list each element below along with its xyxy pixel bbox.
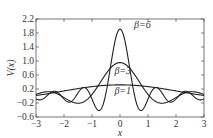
y-tick-label: −0.2 <box>17 98 34 108</box>
x-axis-label: x <box>117 127 123 138</box>
annotation-beta-3: β=3 <box>113 65 131 76</box>
annotation-beta-1: β=1 <box>113 85 131 96</box>
x-tick-label: −2 <box>59 119 69 129</box>
x-tick-label: 2 <box>174 119 179 129</box>
y-tick-label: 1.0 <box>22 56 34 66</box>
x-tick-label: 3 <box>202 119 207 129</box>
y-tick-label: 2.2 <box>22 14 34 24</box>
y-tick-label: 0.2 <box>22 84 34 94</box>
y-tick-label: 0.6 <box>22 70 34 80</box>
x-tick-label: −1 <box>87 119 97 129</box>
x-tick-label: 1 <box>146 119 151 129</box>
sinc-chart: −3−2−101232.21.81.41.00.60.2−0.2−0.6xV(x… <box>0 0 213 138</box>
y-tick-label: −0.6 <box>17 112 34 122</box>
y-axis-label: V(x) <box>5 59 17 77</box>
axes: −3−2−101232.21.81.41.00.60.2−0.2−0.6xV(x… <box>5 14 207 138</box>
annotation-beta-6: β=6 <box>133 19 151 30</box>
y-tick-label: 1.8 <box>22 28 34 38</box>
y-tick-label: 1.4 <box>22 42 34 52</box>
